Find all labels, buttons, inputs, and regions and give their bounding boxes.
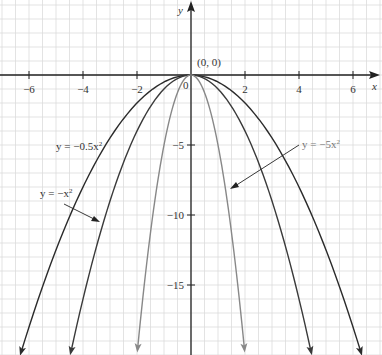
x-axis-label: x <box>371 80 377 92</box>
x-tick-label: −4 <box>77 83 89 95</box>
svg-text:y = −x2: y = −x2 <box>40 187 73 199</box>
x-tick-label: 4 <box>296 83 302 95</box>
parabola-chart: −6−4−2246−5−10−15 x y (0, 0) 0 y = −0.5x… <box>0 0 382 355</box>
arrow-icon <box>91 216 100 222</box>
annotation-half: y = −0.5x2 <box>56 140 103 152</box>
x-tick-label: 2 <box>242 83 248 95</box>
x-tick-label: 6 <box>350 83 356 95</box>
axes <box>0 1 380 355</box>
x-tick-label: −6 <box>23 83 35 95</box>
svg-text:y = −5x2: y = −5x2 <box>302 138 340 150</box>
y-tick-label: −15 <box>167 279 185 291</box>
y-tick-label: −10 <box>167 209 185 221</box>
y-tick-label: −5 <box>172 139 184 151</box>
axis-ticks: −6−4−2246−5−10−15 <box>23 71 356 291</box>
svg-text:y = −0.5x2: y = −0.5x2 <box>56 140 103 152</box>
x-tick-label: −2 <box>131 83 143 95</box>
zero-label: 0 <box>183 79 189 91</box>
y-axis-label: y <box>177 4 183 16</box>
origin-label: (0, 0) <box>197 56 221 69</box>
